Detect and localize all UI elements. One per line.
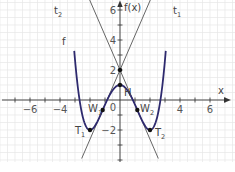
point-S xyxy=(118,68,122,72)
point-W2 xyxy=(135,108,139,112)
w1-subscript: 1 xyxy=(98,109,102,117)
x-tick-label-4: 4 xyxy=(177,104,183,115)
y-axis-label: f(x) xyxy=(124,2,141,13)
x-tick-label-minus4: −4 xyxy=(53,104,68,115)
t2-subscript: 2 xyxy=(58,11,62,19)
point-label-H: H xyxy=(124,87,132,98)
x-tick-label-minus6: −6 xyxy=(23,104,38,115)
point-T1 xyxy=(88,128,92,132)
tangent-t2 xyxy=(86,0,158,159)
x-tick-label-6: 6 xyxy=(207,104,213,115)
origin-label: 0 xyxy=(110,102,116,113)
x-axis-label: x xyxy=(218,85,224,96)
curve-label-f: f xyxy=(62,36,66,47)
w2-letter: W xyxy=(140,103,150,114)
y-tick-label-6: 6 xyxy=(110,5,116,16)
t1-subscript: 1 xyxy=(177,11,181,19)
T2-subscript: 2 xyxy=(161,133,165,141)
y-tick-label-2: 2 xyxy=(110,65,116,76)
point-H xyxy=(118,83,122,87)
y-tick-label-minus2: −2 xyxy=(101,125,116,136)
tangent-label-t2: t2 xyxy=(54,5,62,19)
tangent-t1 xyxy=(82,0,154,159)
function-graph: −6 −4 4 6 6 4 2 −2 0 x f(x) f t2 t1 H W1… xyxy=(0,0,235,172)
point-label-T2: T2 xyxy=(154,127,165,141)
y-axis-arrow-icon xyxy=(117,1,122,8)
point-T2 xyxy=(148,128,152,132)
y-tick-label-4: 4 xyxy=(110,35,116,46)
point-label-T1: T1 xyxy=(74,125,85,139)
T1-subscript: 1 xyxy=(81,131,85,139)
w1-letter: W xyxy=(88,103,98,114)
w2-subscript: 2 xyxy=(150,109,154,117)
grid-lines xyxy=(0,0,235,162)
